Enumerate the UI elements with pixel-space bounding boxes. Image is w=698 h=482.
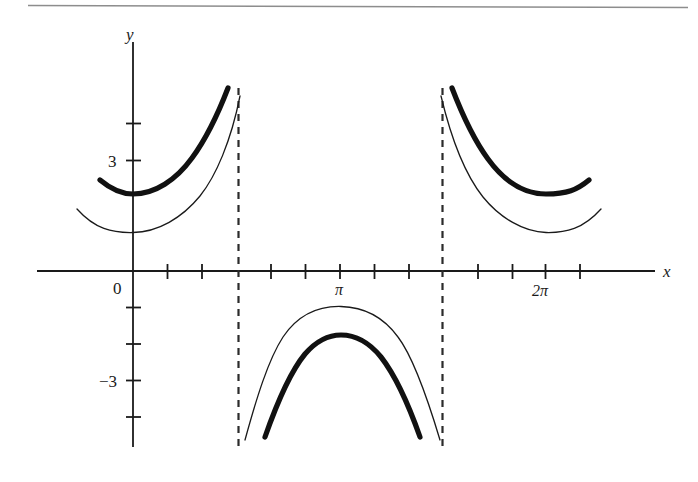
x-tick-label-pi: π bbox=[335, 281, 344, 298]
y-axis-label: y bbox=[124, 25, 134, 44]
x-axis-label: x bbox=[662, 262, 671, 281]
figure-background bbox=[0, 0, 698, 482]
x-tick-label-2pi: 2π bbox=[532, 282, 549, 299]
y-tick-label-3: 3 bbox=[108, 152, 117, 171]
secant-function-graph: x y 0 3 −3 π 2π bbox=[0, 0, 698, 482]
y-tick-label-neg3: −3 bbox=[99, 372, 117, 391]
origin-label: 0 bbox=[113, 279, 122, 298]
